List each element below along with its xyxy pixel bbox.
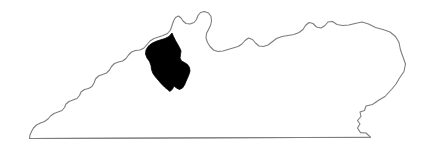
state-locator-map-svg: Virginia county locator map Outline map … [0, 0, 427, 152]
map-figure: Virginia county locator map Outline map … [0, 0, 427, 152]
